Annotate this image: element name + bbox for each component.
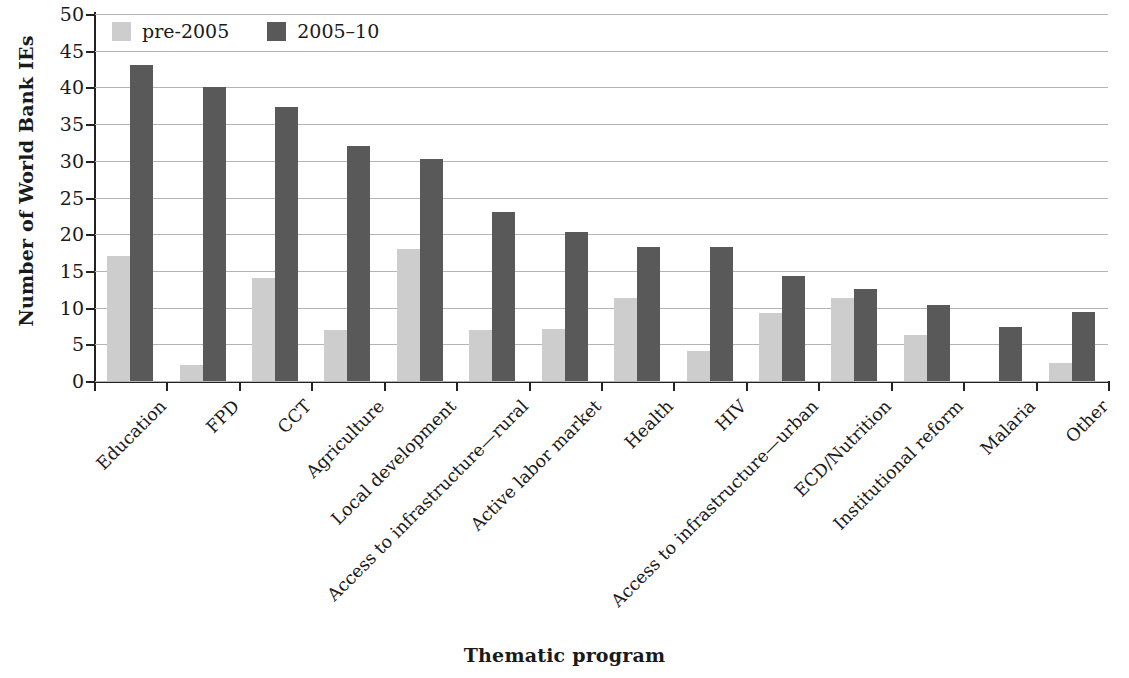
- bar-group: [456, 14, 528, 381]
- bar-group: [166, 14, 238, 381]
- x-tick-mark: [1036, 382, 1038, 391]
- bar-pre-2005[interactable]: [904, 335, 927, 381]
- x-axis-title: Thematic program: [0, 644, 1129, 666]
- bar-pre-2005[interactable]: [1049, 363, 1072, 381]
- bar-2005-10[interactable]: [637, 247, 660, 381]
- x-tick-mark: [963, 382, 965, 391]
- x-tick-mark: [311, 382, 313, 391]
- x-tick-label: Education: [93, 396, 171, 474]
- x-tick-label: HIV: [711, 396, 750, 435]
- y-tick-label: 25: [38, 189, 84, 208]
- y-tick-label: 10: [38, 299, 84, 318]
- y-tick-label: 50: [38, 5, 84, 24]
- y-tick-label: 40: [38, 78, 84, 97]
- legend-entry-2005-10[interactable]: 2005–10: [267, 22, 379, 41]
- bar-group: [818, 14, 890, 381]
- y-tick-label: 0: [38, 372, 84, 391]
- bar-pre-2005[interactable]: [397, 249, 420, 381]
- legend-label-2005-10: 2005–10: [297, 22, 379, 41]
- bar-2005-10[interactable]: [999, 327, 1022, 381]
- y-tick-label: 35: [38, 115, 84, 134]
- bar-2005-10[interactable]: [420, 159, 443, 381]
- bar-group: [529, 14, 601, 381]
- bar-2005-10[interactable]: [130, 65, 153, 381]
- bar-2005-10[interactable]: [782, 276, 805, 381]
- bar-2005-10[interactable]: [203, 87, 226, 381]
- x-tick-mark: [891, 382, 893, 391]
- x-tick-mark: [818, 382, 820, 391]
- bar-pre-2005[interactable]: [614, 298, 637, 381]
- x-tick-label: Institutional reform: [829, 396, 967, 534]
- bar-chart: Number of World Bank IEs 504540353025201…: [0, 0, 1129, 678]
- light-gray-swatch-icon: [112, 22, 131, 41]
- x-tick-mark: [384, 382, 386, 391]
- x-tick-label: Other: [1061, 396, 1111, 446]
- bar-2005-10[interactable]: [710, 247, 733, 381]
- x-tick-mark: [673, 382, 675, 391]
- bar-2005-10[interactable]: [854, 289, 877, 381]
- bar-2005-10[interactable]: [275, 107, 298, 381]
- x-tick-label: Health: [621, 396, 678, 453]
- bar-pre-2005[interactable]: [831, 298, 854, 381]
- bar-pre-2005[interactable]: [180, 365, 203, 381]
- bar-2005-10[interactable]: [565, 232, 588, 381]
- legend-label-pre-2005: pre-2005: [142, 22, 229, 41]
- y-axis-title: Number of World Bank IEs: [15, 16, 37, 346]
- bar-pre-2005[interactable]: [687, 351, 710, 381]
- x-tick-mark: [239, 382, 241, 391]
- bar-group: [963, 14, 1035, 381]
- bar-group: [311, 14, 383, 381]
- bar-pre-2005[interactable]: [324, 330, 347, 381]
- y-tick-label: 30: [38, 152, 84, 171]
- bar-group: [384, 14, 456, 381]
- x-tick-label: Malaria: [977, 396, 1040, 459]
- y-tick-label: 20: [38, 225, 84, 244]
- x-tick-mark: [94, 382, 96, 391]
- bar-group: [746, 14, 818, 381]
- x-tick-label: Local development: [327, 396, 460, 529]
- bar-2005-10[interactable]: [492, 212, 515, 381]
- legend-entry-pre-2005[interactable]: pre-2005: [112, 22, 229, 41]
- bar-group: [239, 14, 311, 381]
- bar-pre-2005[interactable]: [469, 330, 492, 381]
- bar-2005-10[interactable]: [1072, 312, 1095, 381]
- bar-pre-2005[interactable]: [107, 256, 130, 381]
- bar-group: [673, 14, 745, 381]
- x-tick-label: FPD: [202, 396, 243, 437]
- x-tick-mark: [601, 382, 603, 391]
- legend: pre-2005 2005–10: [112, 22, 379, 41]
- dark-gray-swatch-icon: [267, 22, 286, 41]
- y-tick-label: 5: [38, 335, 84, 354]
- bar-group: [891, 14, 963, 381]
- bar-group: [1036, 14, 1108, 381]
- bar-pre-2005[interactable]: [542, 329, 565, 381]
- bar-pre-2005[interactable]: [252, 278, 275, 381]
- y-tick-label: 45: [38, 42, 84, 61]
- x-tick-mark: [529, 382, 531, 391]
- y-tick-label: 15: [38, 262, 84, 281]
- x-tick-mark: [1108, 382, 1110, 391]
- x-tick-mark: [456, 382, 458, 391]
- bar-pre-2005[interactable]: [759, 313, 782, 381]
- bar-group: [94, 14, 166, 381]
- bar-2005-10[interactable]: [927, 305, 950, 381]
- bar-2005-10[interactable]: [347, 146, 370, 381]
- bar-group: [601, 14, 673, 381]
- x-tick-label: CCT: [274, 396, 315, 437]
- x-tick-mark: [166, 382, 168, 391]
- x-tick-label: Active labor market: [466, 396, 605, 535]
- plot-area: [94, 14, 1108, 381]
- x-tick-mark: [746, 382, 748, 391]
